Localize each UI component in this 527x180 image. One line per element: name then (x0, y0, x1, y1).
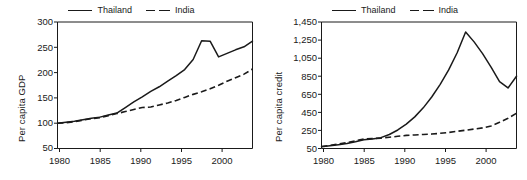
x-tick-label: 2000 (212, 155, 233, 166)
y-tick-label: 150 (37, 92, 53, 103)
series-line-thailand (322, 32, 517, 147)
chart-panel-per-capita-credit: Thailand India Per capita credit 1,450 1… (263, 0, 527, 180)
x-tick-label: 1980 (49, 155, 70, 166)
x-tick-label: 1985 (90, 155, 111, 166)
y-tick-label: 300 (37, 16, 53, 27)
series-line-india (322, 113, 517, 146)
y-tick-label: 1,450 (293, 16, 317, 27)
y-tick-label: 1,250 (293, 34, 317, 45)
x-tick-label: 2000 (476, 155, 497, 166)
y-tick-label: 50 (306, 143, 317, 154)
y-tick-label: 50 (42, 142, 53, 153)
plot-area-right: 1,450 1,250 1,050 850 650 450 250 50 (263, 0, 527, 180)
x-tick-label: 1995 (435, 155, 456, 166)
y-tick-label: 250 (37, 42, 53, 53)
x-tick-label: 1980 (313, 155, 334, 166)
y-tick-label: 1,050 (293, 52, 317, 63)
y-tick-label: 100 (37, 117, 53, 128)
y-tick-label: 850 (301, 71, 317, 82)
y-tick-label: 450 (301, 107, 317, 118)
y-tick-label: 200 (37, 67, 53, 78)
x-tick-label: 1990 (394, 155, 415, 166)
y-tick-label: 250 (301, 125, 317, 136)
x-tick-label: 1995 (171, 155, 192, 166)
x-tick-label: 1985 (354, 155, 375, 166)
plot-area-left: 300 250 200 150 100 50 1980 1985 199 (0, 0, 263, 180)
chart-panel-per-capita-gdp: Thailand India Per capita GDP 300 250 20… (0, 0, 263, 180)
x-tick-label: 1990 (130, 155, 151, 166)
y-tick-label: 650 (301, 89, 317, 100)
series-line-india (58, 69, 253, 123)
two-panel-line-chart-figure: Thailand India Per capita GDP 300 250 20… (0, 0, 527, 180)
series-line-thailand (58, 41, 253, 123)
